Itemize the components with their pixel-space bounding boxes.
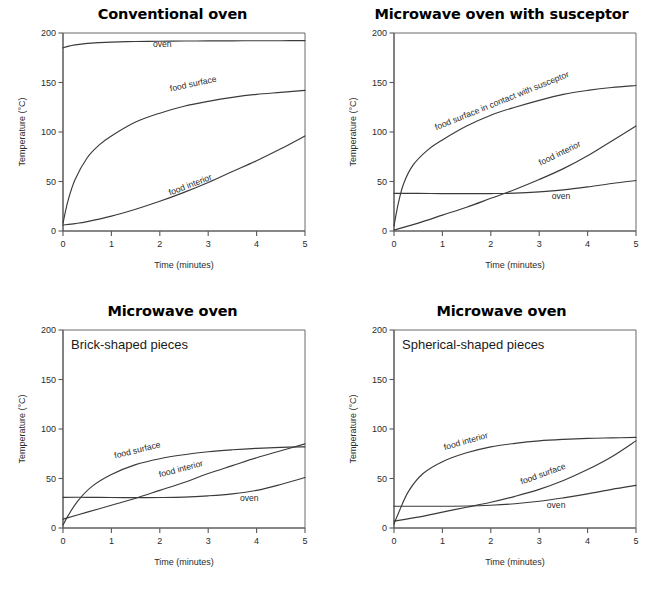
x-tick-label: 1 — [440, 239, 445, 249]
x-tick-label: 3 — [206, 239, 211, 249]
curve-label-food-surface-in-contact-with-susceptor: food surface in contact with susceptor — [433, 69, 570, 132]
chart-inset-title: Spherical-shaped pieces — [402, 337, 545, 352]
x-tick-label: 1 — [109, 536, 114, 546]
y-tick-label: 100 — [372, 127, 387, 137]
x-axis-title: Time (minutes) — [154, 557, 214, 567]
x-tick-label: 4 — [254, 239, 259, 249]
x-axis: 012345Time (minutes) — [391, 528, 638, 567]
plot-frame — [63, 33, 305, 231]
curve-label-food-surface: food surface — [113, 439, 162, 460]
x-tick-label: 2 — [488, 536, 493, 546]
curve-food-surface — [63, 447, 305, 525]
x-tick-label: 0 — [391, 536, 396, 546]
y-tick-label: 0 — [382, 226, 387, 236]
x-tick-label: 3 — [537, 239, 542, 249]
curve-label-food-surface: food surface — [169, 74, 218, 94]
curve-food-surface — [63, 90, 305, 223]
y-tick-label: 0 — [51, 226, 56, 236]
chart-panel-conventional-oven: Conventional oven050100150200Temperature… — [0, 0, 331, 297]
y-tick-label: 50 — [377, 474, 387, 484]
y-tick-label: 200 — [41, 325, 56, 335]
curve-label-food-interior: food interior — [167, 172, 213, 198]
curve-oven — [63, 41, 305, 48]
plot-frame — [394, 33, 636, 231]
x-tick-label: 5 — [633, 239, 638, 249]
x-tick-label: 5 — [633, 536, 638, 546]
x-tick-label: 5 — [302, 239, 307, 249]
plot-frame — [394, 330, 636, 528]
chart-canvas-microwave-oven-spherical-shaped: 050100150200Temperature (°C)012345Time (… — [331, 297, 662, 594]
curve-label-oven: oven — [552, 191, 571, 201]
y-axis: 050100150200Temperature (°C) — [348, 325, 394, 533]
y-tick-label: 150 — [372, 78, 387, 88]
figure-panel-grid: Conventional oven050100150200Temperature… — [0, 0, 662, 594]
y-tick-label: 150 — [41, 78, 56, 88]
y-axis-title: Temperature (°C) — [17, 97, 27, 166]
curve-food-surface-in-contact-with-susceptor — [394, 85, 636, 226]
x-axis-title: Time (minutes) — [485, 260, 545, 270]
x-axis-title: Time (minutes) — [485, 557, 545, 567]
curve-oven — [63, 478, 305, 498]
x-tick-label: 0 — [391, 239, 396, 249]
curve-oven — [394, 181, 636, 194]
y-axis-title: Temperature (°C) — [348, 394, 358, 463]
y-tick-label: 100 — [372, 424, 387, 434]
x-tick-label: 4 — [254, 536, 259, 546]
y-tick-label: 200 — [41, 28, 56, 38]
chart-canvas-microwave-oven-brick-shaped: 050100150200Temperature (°C)012345Time (… — [0, 297, 331, 594]
x-tick-label: 5 — [302, 536, 307, 546]
curve-label-food-interior: food interior — [537, 139, 582, 168]
curve-label-oven: oven — [153, 39, 172, 49]
y-axis: 050100150200Temperature (°C) — [17, 28, 63, 236]
curve-food-interior — [394, 126, 636, 230]
curve-label-food-surface: food surface — [519, 461, 567, 487]
y-tick-label: 100 — [41, 424, 56, 434]
y-tick-label: 200 — [372, 325, 387, 335]
x-tick-label: 2 — [157, 536, 162, 546]
y-axis-title: Temperature (°C) — [348, 97, 358, 166]
x-tick-label: 2 — [157, 239, 162, 249]
x-axis-title: Time (minutes) — [154, 260, 214, 270]
curve-label-food-interior: food interior — [158, 458, 205, 479]
y-tick-label: 200 — [372, 28, 387, 38]
x-tick-label: 3 — [537, 536, 542, 546]
chart-panel-microwave-oven-brick-shaped: Microwave oven050100150200Temperature (°… — [0, 297, 331, 594]
y-tick-label: 50 — [46, 474, 56, 484]
chart-panel-microwave-oven-spherical-shaped: Microwave oven050100150200Temperature (°… — [331, 297, 662, 594]
y-tick-label: 0 — [51, 523, 56, 533]
y-tick-label: 150 — [372, 375, 387, 385]
x-tick-label: 0 — [60, 536, 65, 546]
x-tick-label: 4 — [585, 536, 590, 546]
chart-canvas-conventional-oven: 050100150200Temperature (°C)012345Time (… — [0, 0, 331, 297]
curve-label-oven: oven — [240, 493, 259, 503]
curve-label-oven: oven — [547, 500, 566, 510]
chart-inset-title: Brick-shaped pieces — [71, 337, 189, 352]
x-tick-label: 1 — [440, 536, 445, 546]
chart-panel-microwave-oven-with-susceptor: Microwave oven with susceptor05010015020… — [331, 0, 662, 297]
curve-food-surface — [394, 441, 636, 521]
x-tick-label: 4 — [585, 239, 590, 249]
y-tick-label: 150 — [41, 375, 56, 385]
x-axis: 012345Time (minutes) — [391, 231, 638, 270]
x-tick-label: 0 — [60, 239, 65, 249]
x-tick-label: 3 — [206, 536, 211, 546]
y-tick-label: 50 — [377, 177, 387, 187]
x-tick-label: 2 — [488, 239, 493, 249]
curve-food-interior — [63, 136, 305, 225]
y-tick-label: 100 — [41, 127, 56, 137]
y-axis: 050100150200Temperature (°C) — [17, 325, 63, 533]
x-axis: 012345Time (minutes) — [60, 528, 307, 567]
x-tick-label: 1 — [109, 239, 114, 249]
y-tick-label: 0 — [382, 523, 387, 533]
x-axis: 012345Time (minutes) — [60, 231, 307, 270]
chart-canvas-microwave-oven-with-susceptor: 050100150200Temperature (°C)012345Time (… — [331, 0, 662, 297]
curve-food-interior — [394, 437, 636, 524]
y-axis: 050100150200Temperature (°C) — [348, 28, 394, 236]
y-axis-title: Temperature (°C) — [17, 394, 27, 463]
y-tick-label: 50 — [46, 177, 56, 187]
plot-frame — [63, 330, 305, 528]
